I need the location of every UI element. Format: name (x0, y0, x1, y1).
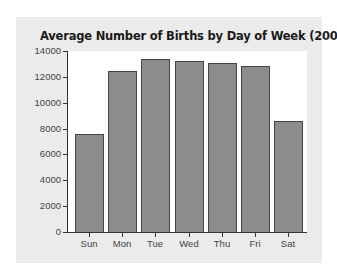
y-tick-label: 4000 (17, 174, 61, 185)
y-tick-label: 2000 (17, 200, 61, 211)
bar-wed (175, 61, 204, 233)
x-tick-label: Sun (74, 238, 104, 249)
y-tick-label: 12000 (17, 71, 61, 82)
x-tick (155, 233, 156, 237)
x-tick (222, 233, 223, 237)
y-tick-label: 6000 (17, 148, 61, 159)
y-tick-label: 14000 (17, 45, 61, 56)
y-tick-label: 0 (17, 226, 61, 237)
x-tick-label: Wed (174, 238, 204, 249)
y-axis-line (67, 51, 68, 233)
bar-fri (241, 66, 270, 233)
chart-panel: Average Number of Births by Day of Week … (16, 17, 322, 263)
bar-thu (208, 63, 237, 233)
y-tick-label: 10000 (17, 97, 61, 108)
y-tick-label: 8000 (17, 123, 61, 134)
bar-mon (108, 71, 137, 233)
chart-title: Average Number of Births by Day of Week … (16, 29, 322, 43)
x-tick (122, 233, 123, 237)
x-tick-label: Sat (273, 238, 303, 249)
x-tick-label: Fri (240, 238, 270, 249)
x-tick (189, 233, 190, 237)
x-tick (89, 233, 90, 237)
bar-tue (141, 59, 170, 233)
x-tick-label: Mon (107, 238, 137, 249)
x-tick (288, 233, 289, 237)
x-tick (255, 233, 256, 237)
x-tick-label: Thu (207, 238, 237, 249)
x-axis-line (67, 232, 307, 233)
bar-sun (75, 134, 104, 233)
bar-sat (274, 121, 303, 233)
x-tick-label: Tue (140, 238, 170, 249)
